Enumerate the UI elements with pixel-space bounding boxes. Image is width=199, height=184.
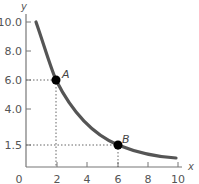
y-tick-label: 4.0 [5,103,23,116]
x-tick-label: 10 [171,173,185,184]
y-tick-label: 8.0 [5,45,23,58]
y-tick-label: 1.5 [5,139,23,152]
x-tick-label: 2 [54,173,61,184]
curve [36,22,176,158]
y-tick-label: 10.0 [0,16,22,29]
point-a [52,76,61,85]
point-b-label: B [122,133,130,146]
origin-label: 0 [16,173,23,184]
x-axis-label: x [187,161,194,172]
y-tick-label: 6.0 [5,74,23,87]
y-axis-label: y [20,1,28,12]
x-tick-label: 8 [145,173,152,184]
x-tick-label: 6 [115,173,122,184]
guide-lines [26,80,118,167]
y-ticks [26,22,31,145]
x-tick-label: 4 [84,173,91,184]
chart: A B 10.0 8.0 6.0 4.0 1.5 0 2 4 6 8 10 y … [0,0,199,184]
point-a-label: A [61,68,70,81]
